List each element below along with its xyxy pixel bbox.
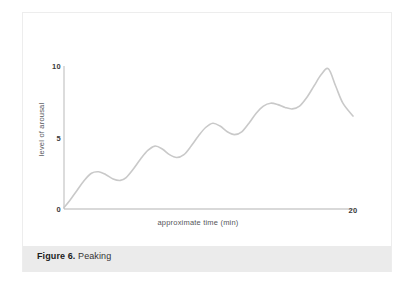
x-tick-label-20: 20	[344, 206, 362, 215]
figure-caption: Figure 6. Peaking	[37, 251, 111, 261]
arousal-line-chart	[23, 13, 391, 245]
x-axis-title: approximate time (min)	[83, 218, 313, 227]
y-axis-title: level of arousal	[37, 90, 46, 170]
arousal-data-line	[64, 68, 353, 207]
chart-plot-area: 10 5 0 20 level of arousal approximate t…	[23, 13, 391, 245]
figure-card: 10 5 0 20 level of arousal approximate t…	[22, 12, 392, 272]
y-tick-label-0: 0	[47, 205, 61, 214]
y-tick-label-10: 10	[47, 62, 61, 71]
y-tick-label-5: 5	[47, 134, 61, 143]
figure-caption-number: Figure 6.	[37, 251, 75, 261]
figure-caption-title: Peaking	[78, 251, 111, 261]
